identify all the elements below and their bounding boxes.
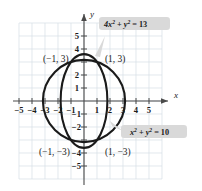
math-figure-circle-ellipse: 4x2 + y2 = 13 x2 + y2 = 10 (−1, 3) (1, 3… <box>0 0 202 191</box>
point-label-top-right: (1, 3) <box>105 54 125 65</box>
point-label-bottom-left: (−1, −3) <box>39 147 70 158</box>
coordinate-plane: 4x2 + y2 = 13 x2 + y2 = 10 (−1, 3) (1, 3… <box>0 0 202 191</box>
y-tick-label--2: −2 <box>72 122 81 132</box>
axes <box>13 14 168 185</box>
x-tick-label--3: −3 <box>40 105 49 115</box>
y-tick-label-1: 1 <box>75 83 79 93</box>
y-axis-arrow <box>81 14 87 21</box>
ellipse-equation-label: 4x2 + y2 = 13 <box>103 19 147 29</box>
point-label-top-left: (−1, 3) <box>43 54 69 65</box>
x-axis-arrow <box>161 98 168 104</box>
y-tick-label-2: 2 <box>75 70 79 80</box>
y-tick-label--4: −4 <box>72 148 82 158</box>
x-tick-label-5: 5 <box>147 105 151 115</box>
y-tick-label-5: 5 <box>75 31 79 41</box>
x-tick-label-3: 3 <box>121 105 125 115</box>
y-tick-label--5: −5 <box>72 161 81 171</box>
x-tick-label-4: 4 <box>134 105 139 115</box>
y-tick-label--1: −1 <box>72 109 81 119</box>
y-tick-label-4: 4 <box>75 44 80 54</box>
x-tick-label-2: 2 <box>108 105 112 115</box>
x-tick-label-1: 1 <box>95 105 99 115</box>
point-label-bottom-right: (1, −3) <box>105 147 131 158</box>
ellipse-callout-pointer <box>95 36 105 57</box>
y-axis-label: y <box>89 9 94 19</box>
x-tick-label--2: −2 <box>53 105 62 115</box>
x-tick-label--4: −4 <box>27 105 37 115</box>
x-tick-label--5: −5 <box>14 105 23 115</box>
x-axis-label: x <box>173 90 178 100</box>
